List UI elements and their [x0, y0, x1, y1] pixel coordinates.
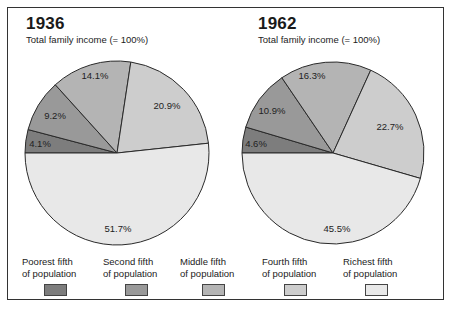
- slice-label: 14.1%: [82, 70, 109, 81]
- legend-label: of population: [22, 268, 112, 280]
- slice-label: 10.9%: [259, 105, 286, 116]
- legend-label: Fourth fifth: [262, 256, 352, 268]
- legend-item: Fourth fifthof population: [262, 256, 352, 280]
- slice-label: 4.1%: [29, 138, 51, 149]
- legend-swatch: [365, 284, 388, 296]
- pie-chart-1936: 4.1%9.2%14.1%20.9%51.7%: [25, 61, 209, 245]
- slice-label: 4.6%: [245, 138, 267, 149]
- pie-chart-1962: 4.6%10.9%16.3%22.7%45.5%: [242, 62, 424, 244]
- legend-swatch: [125, 284, 148, 296]
- slice-label: 9.2%: [44, 110, 66, 121]
- legend-swatch: [44, 284, 67, 296]
- legend-item: Richest fifthof population: [343, 256, 433, 280]
- legend-label: of population: [262, 268, 352, 280]
- slice-label: 22.7%: [377, 121, 404, 132]
- legend-label: Middle fifth: [180, 256, 270, 268]
- legend-item: Middle fifthof population: [180, 256, 270, 280]
- legend-swatch: [202, 284, 225, 296]
- legend-swatch: [284, 284, 307, 296]
- legend-label: Poorest fifth: [22, 256, 112, 268]
- legend-label: of population: [343, 268, 433, 280]
- slice-label: 51.7%: [105, 223, 132, 234]
- slice-label: 45.5%: [324, 223, 351, 234]
- legend-item: Poorest fifthof population: [22, 256, 112, 280]
- legend-label: of population: [180, 268, 270, 280]
- slice-label: 20.9%: [154, 100, 181, 111]
- legend-label: Richest fifth: [343, 256, 433, 268]
- slice-label: 16.3%: [299, 70, 326, 81]
